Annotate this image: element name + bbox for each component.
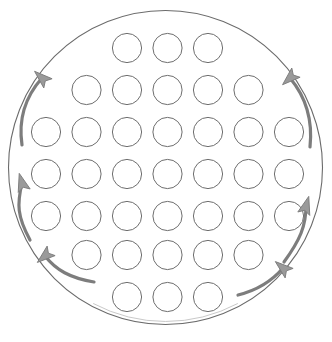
tube-circle xyxy=(72,117,101,146)
tube-circle xyxy=(153,159,182,188)
tube-circle xyxy=(193,282,222,311)
tube-row xyxy=(31,117,303,146)
tube-circle xyxy=(72,201,101,230)
tube-row xyxy=(112,33,222,62)
tube-circle xyxy=(31,117,60,146)
vessel-cross-section-svg xyxy=(0,0,332,342)
tube-circle xyxy=(193,240,222,269)
tube-circle xyxy=(112,159,141,188)
tube-circle xyxy=(72,75,101,104)
tube-circle xyxy=(112,33,141,62)
tube-circle xyxy=(193,201,222,230)
tube-row xyxy=(31,159,303,188)
tube-circle xyxy=(153,33,182,62)
tube-circle xyxy=(274,117,303,146)
tube-circle xyxy=(193,33,222,62)
tube-circle xyxy=(234,159,263,188)
tube-circle xyxy=(153,117,182,146)
tube-circle xyxy=(234,201,263,230)
tube-circle xyxy=(72,240,101,269)
tube-circle xyxy=(112,75,141,104)
tube-circle xyxy=(153,201,182,230)
tube-row xyxy=(112,282,222,311)
tube-circle xyxy=(112,240,141,269)
tube-circle xyxy=(153,75,182,104)
tube-circle xyxy=(193,117,222,146)
vessel-cross-section-diagram xyxy=(0,0,332,342)
tube-circle xyxy=(234,240,263,269)
tube-circle xyxy=(193,75,222,104)
tube-bundle-group xyxy=(31,33,303,311)
tube-circle xyxy=(234,117,263,146)
tube-circle xyxy=(31,159,60,188)
tube-circle xyxy=(112,201,141,230)
arrow-shaft xyxy=(19,183,30,240)
tube-circle xyxy=(153,240,182,269)
tube-circle xyxy=(274,201,303,230)
tube-circle xyxy=(31,201,60,230)
tube-row xyxy=(72,240,263,269)
arrow-head xyxy=(13,172,30,193)
tube-circle xyxy=(274,159,303,188)
tube-circle xyxy=(153,282,182,311)
tube-circle xyxy=(112,117,141,146)
arrow-shaft xyxy=(238,268,283,295)
tube-circle xyxy=(193,159,222,188)
tube-circle xyxy=(112,282,141,311)
tube-circle xyxy=(72,159,101,188)
tube-circle xyxy=(234,75,263,104)
arrow-head xyxy=(30,67,52,88)
tube-row xyxy=(72,75,263,104)
tube-row xyxy=(31,201,303,230)
